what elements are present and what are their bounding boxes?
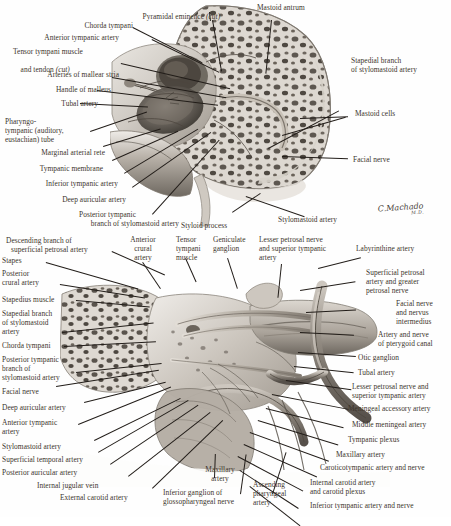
label-inferior-tympanic-artery-upper: Inferior tympanic artery (0, 180, 118, 189)
label-anterior-crural-artery-l3: artery (121, 254, 165, 263)
label-caroticotympanic-artery-nerve: Caroticotympanic artery and nerve (320, 464, 424, 473)
label-geniculate-ganglion-l2: ganglion (213, 245, 239, 254)
label-maxillary-artery-right: Maxillary artery (336, 451, 385, 460)
label-internal-jugular-vein: Internal jugular vein (37, 482, 98, 491)
label-stylomastoid-artery-upper: Stylomastoid artery (278, 216, 337, 225)
label-posterior-tympanic-branch-lower-l3: stylomastoid artery (2, 374, 60, 383)
label-labyrinthine-artery: Labyrinthine artery (356, 245, 414, 254)
label-posterior-tympanic-branch-upper-l2: branch of stylomastoid artery (0, 220, 179, 229)
label-tensor-tympani-muscle-lower-l3: muscle (176, 254, 197, 263)
label-artery-nerve-pterygoid-l2: of pterygoid canal (378, 340, 433, 349)
label-stylomastoid-artery-lower: Stylomastoid artery (2, 443, 61, 452)
label-stapedial-branch-lower-l3: artery (2, 328, 20, 337)
label-tympanic-membrane: Tympanic membrane (0, 165, 103, 174)
label-marginal-arterial-rete: Marginal arterial rete (0, 149, 105, 158)
label-superficial-temporal-artery: Superficial temporal artery (2, 456, 83, 465)
leader-line (318, 257, 361, 268)
label-anterior-tympanic-artery-upper: Anterior tympanic artery (0, 34, 119, 43)
label-stapedius-muscle: Stapedius muscle (2, 296, 54, 305)
label-pharyngotympanic-tube-l3: eustachian) tube (5, 136, 54, 145)
label-tensor-tympani-muscle-upper: Tensor tympani muscle (13, 48, 83, 57)
label-otic-ganglion: Otic ganglion (358, 354, 399, 363)
label-handle-of-malleus: Handle of malleus (0, 86, 111, 95)
label-superficial-petrosal-artery-l3: petrosal nerve (366, 287, 408, 296)
label-tympanic-plexus: Tympanic plexus (348, 436, 399, 445)
label-facial-nerve-lower: Facial nerve (2, 388, 39, 397)
label-facial-nerve-nervus-l3: intermedius (396, 318, 431, 327)
label-lesser-petrosal-nerve-mid-l3: artery (259, 254, 277, 263)
label-tubal-artery-upper: Tubal artery (0, 100, 98, 109)
label-external-carotid-artery: External carotid artery (60, 494, 128, 503)
label-deep-auricular-artery-upper: Deep auricular artery (0, 196, 126, 205)
label-inferior-tympanic-artery-nerve: Inferior tympanic artery and nerve (310, 502, 413, 511)
label-descending-branch-l2: superficial petrosal artery (11, 246, 88, 255)
label-lesser-petrosal-nerve-lower-l2: superior tympanic artery (352, 392, 426, 401)
label-posterior-auricular-artery: Posterior auricular artery (2, 469, 77, 478)
label-chorda-tympani-lower: Chorda tympani (2, 342, 51, 351)
label-ascending-pharyngeal-l3: artery (253, 499, 271, 508)
illustration-upper-middle-ear (110, 2, 340, 227)
label-styloid-process: Styloid process (181, 222, 227, 231)
label-stapes: Stapes (2, 257, 22, 266)
label-inferior-ganglion-l2: glossopharyngeal nerve (163, 498, 234, 507)
label-stapedial-branch-upper-l2: of stylomastoid artery (351, 66, 417, 75)
label-text-italic: (cut) (206, 12, 220, 21)
label-deep-auricular-artery-lower: Deep auricular artery (2, 404, 66, 413)
label-facial-nerve-upper: Facial nerve (353, 156, 390, 165)
label-maxillary-artery-bottom-l2: artery (196, 475, 244, 484)
artist-signature: C.Machado M.D. (378, 201, 424, 217)
label-posterior-crural-artery-l2: crural artery (2, 279, 39, 288)
label-mastoid-cells: Mastoid cells (355, 110, 395, 119)
label-meningeal-accessory-artery: Meningeal accessory artery (348, 405, 431, 414)
label-arteries-of-mallear-stria: Arteries of mallear stria (0, 71, 119, 80)
label-text: Pyramidal eminence (143, 12, 206, 21)
label-anterior-tympanic-artery-lower-l2: artery (2, 428, 20, 437)
label-pyramidal-eminence: Pyramidal eminence (cut) (135, 4, 220, 30)
label-chorda-tympani-upper: Chorda tympani (0, 22, 133, 31)
label-middle-meningeal-artery: Middle meningeal artery (352, 421, 426, 430)
label-mastoid-antrum: Mastoid antrum (257, 4, 305, 13)
label-internal-carotid-artery-l2: and carotid plexus (310, 488, 365, 497)
label-tubal-artery-lower: Tubal artery (358, 369, 395, 378)
